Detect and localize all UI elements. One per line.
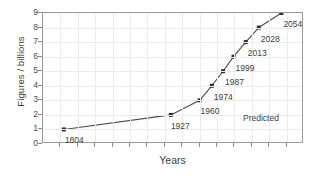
y-axis-tick-mark — [38, 85, 42, 86]
gridline-vertical — [113, 13, 114, 142]
data-point-label: 1804 — [65, 136, 84, 145]
x-axis-tick-mark — [251, 143, 252, 147]
y-axis-tick-label: 1 — [22, 124, 38, 133]
y-axis-tick-label: 9 — [22, 8, 38, 17]
gridline-vertical — [95, 13, 96, 142]
gridline-vertical — [78, 13, 79, 142]
x-axis-tick-mark — [268, 143, 269, 147]
y-axis-tick-label: 2 — [22, 110, 38, 119]
gridline-vertical — [165, 13, 166, 142]
data-point-label: 1974 — [214, 93, 233, 102]
x-axis-tick-mark — [181, 143, 182, 147]
x-axis-tick-mark — [94, 143, 95, 147]
gridline-horizontal — [43, 71, 302, 72]
x-axis-tick-mark — [164, 143, 165, 147]
y-axis-tick-mark — [38, 128, 42, 129]
y-axis-tick-mark — [38, 70, 42, 71]
y-axis-tick-mark — [38, 27, 42, 28]
x-axis-tick-mark — [112, 143, 113, 147]
x-axis-title: Years — [42, 154, 303, 166]
data-point-marker[interactable] — [279, 12, 283, 15]
data-point-label: 2013 — [248, 49, 267, 58]
gridline-vertical — [60, 13, 61, 142]
y-axis-tick-mark — [38, 41, 42, 42]
gridline-vertical — [217, 13, 218, 142]
x-axis-tick-mark — [59, 143, 60, 147]
x-axis-tick-mark — [129, 143, 130, 147]
gridline-vertical — [130, 13, 131, 142]
y-axis-tick-label: 7 — [22, 37, 38, 46]
y-axis-tick-label: 8 — [22, 22, 38, 31]
x-axis-tick-mark — [286, 143, 287, 147]
gridline-vertical — [147, 13, 148, 142]
gridline-vertical — [200, 13, 201, 142]
y-axis-tick-mark — [38, 56, 42, 57]
gridline-horizontal — [43, 100, 302, 101]
x-axis-tick-mark — [216, 143, 217, 147]
predicted-annotation: Predicted — [243, 114, 279, 123]
y-axis-tick-labels: 0123456789 — [22, 12, 38, 143]
x-axis-tick-mark — [146, 143, 147, 147]
data-point-label: 1960 — [201, 107, 220, 116]
y-axis-tick-label: 4 — [22, 81, 38, 90]
gridline-horizontal — [43, 28, 302, 29]
x-axis-tick-mark — [199, 143, 200, 147]
y-axis-tick-label: 3 — [22, 95, 38, 104]
x-axis-tick-mark — [233, 143, 234, 147]
population-growth-chart: Figures / billions 0123456789 Years Pred… — [0, 0, 320, 178]
data-point-label: 1999 — [236, 64, 255, 73]
y-axis-tick-mark — [38, 99, 42, 100]
y-axis-tick-mark — [38, 143, 42, 144]
data-point-label: 1987 — [225, 78, 244, 87]
y-axis-tick-label: 5 — [22, 66, 38, 75]
y-axis-tick-label: 0 — [22, 139, 38, 148]
data-point-label: 1927 — [171, 122, 190, 131]
y-axis-tick-mark — [38, 12, 42, 13]
y-axis-tick-mark — [38, 114, 42, 115]
gridline-horizontal — [43, 86, 302, 87]
data-point-label: 2054 — [283, 20, 302, 29]
y-axis-tick-label: 6 — [22, 51, 38, 60]
gridline-vertical — [287, 13, 288, 142]
data-point-label: 2028 — [261, 35, 280, 44]
